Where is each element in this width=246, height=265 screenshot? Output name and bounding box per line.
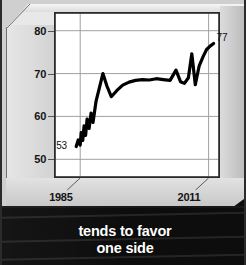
- y-tick-label-60: 60: [22, 110, 46, 122]
- y-tick-label-80: 80: [22, 25, 46, 37]
- y-tick-label-50: 50: [22, 153, 46, 165]
- caption-text: tends to favor one side: [2, 223, 246, 257]
- annotation-77: 77: [217, 32, 228, 43]
- x-tick-label-1985: 1985: [49, 191, 72, 203]
- trend-line-final-layer: [54, 12, 220, 178]
- x-tick-label-2011: 2011: [178, 191, 201, 203]
- caption-line-1: tends to favor: [2, 223, 246, 240]
- caption-line-2: one side: [2, 240, 246, 257]
- y-tick-label-70: 70: [22, 68, 46, 80]
- infographic-panel: 80 70 60 50: [0, 0, 246, 265]
- chart-3d-block: 80 70 60 50: [2, 0, 246, 212]
- caption-band: tends to favor one side: [2, 206, 246, 265]
- annotation-53: 53: [56, 140, 67, 151]
